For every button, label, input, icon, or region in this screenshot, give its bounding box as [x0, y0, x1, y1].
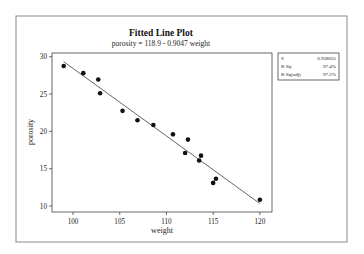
x-tick-label: 110	[161, 218, 172, 226]
data-point	[183, 151, 188, 156]
x-tick-label: 120	[254, 218, 265, 226]
stat-value: 97.4%	[323, 64, 336, 69]
y-tick-label: 20	[40, 128, 48, 136]
chart-title: Fitted Line Plot	[129, 28, 194, 38]
stat-label: R-Sq(adj)	[281, 72, 301, 77]
data-point	[151, 123, 156, 128]
data-point	[98, 91, 103, 96]
y-tick-label: 25	[40, 91, 48, 99]
y-tick-label: 15	[40, 165, 48, 173]
x-axis-label: weight	[151, 226, 174, 235]
data-point	[186, 137, 191, 142]
data-point	[81, 71, 86, 76]
y-tick-label: 30	[40, 53, 48, 61]
data-point	[135, 118, 140, 123]
fitted-line-plot: Fitted Line Plot porosity = 118.9 - 0.90…	[0, 0, 364, 254]
stat-label: S	[281, 56, 284, 61]
data-point	[199, 153, 204, 158]
x-tick-label: 105	[114, 218, 125, 226]
chart-subtitle: porosity = 118.9 - 0.9047 weight	[112, 39, 211, 48]
stats-box: S0.938035R-Sq97.4%R-Sq(adj)97.2%	[278, 53, 339, 80]
x-tick-label: 100	[68, 218, 79, 226]
data-point	[61, 64, 66, 69]
data-point	[96, 77, 101, 82]
x-tick-label: 115	[208, 218, 219, 226]
data-point	[258, 197, 263, 202]
data-point	[197, 158, 202, 163]
data-point	[211, 181, 216, 186]
data-point	[214, 176, 219, 181]
stat-value: 0.938035	[317, 56, 336, 61]
data-point	[171, 132, 176, 137]
y-tick-label: 10	[40, 203, 48, 211]
y-axis-label: porosity	[26, 119, 35, 145]
stat-label: R-Sq	[281, 64, 292, 69]
data-point	[120, 109, 125, 114]
stat-value: 97.2%	[323, 72, 336, 77]
outer-frame	[16, 16, 347, 242]
